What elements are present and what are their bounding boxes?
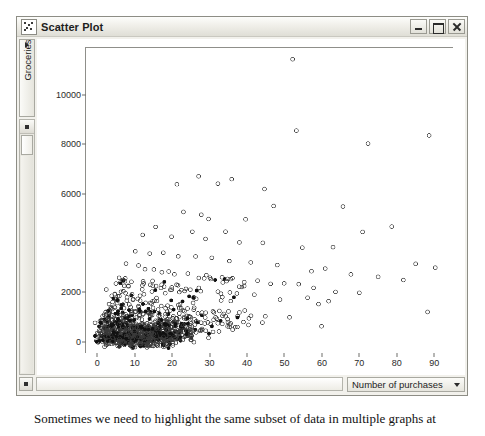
x-axis-tick-mark bbox=[97, 353, 98, 357]
plot-panel: 0200040006000800010000010203040506070809… bbox=[37, 39, 465, 375]
y-axis-variable-label: Groceries bbox=[20, 39, 35, 89]
y-axis-tick-label: 10000 bbox=[56, 90, 81, 100]
x-axis-tick-mark bbox=[134, 353, 135, 357]
figure-caption: Sometimes we need to highlight the same … bbox=[34, 410, 464, 427]
x-axis-tick-label: 90 bbox=[429, 358, 439, 368]
scroll-up-button[interactable] bbox=[20, 120, 34, 134]
y-axis-tick-label: 6000 bbox=[61, 189, 81, 199]
minimize-button[interactable] bbox=[410, 19, 427, 34]
scatter-plot-canvas[interactable] bbox=[86, 48, 453, 353]
y-axis-tick-label: 0 bbox=[76, 337, 81, 347]
vertical-scrollbar-thumb[interactable] bbox=[21, 135, 33, 155]
chevron-down-icon bbox=[454, 383, 460, 387]
x-axis-tick-label: 30 bbox=[205, 358, 215, 368]
x-axis-tick-mark bbox=[321, 353, 322, 357]
window-title: Scatter Plot bbox=[41, 21, 408, 33]
left-rail: Groceries bbox=[19, 39, 35, 375]
y-axis-tick-mark bbox=[82, 292, 86, 293]
x-axis-variable-selector[interactable]: Number of purchases bbox=[347, 377, 465, 392]
plot-frame: 0200040006000800010000010203040506070809… bbox=[85, 47, 453, 353]
scatter-plot-icon bbox=[21, 19, 37, 35]
x-axis-tick-label: 80 bbox=[392, 358, 402, 368]
x-axis-tick-mark bbox=[247, 353, 248, 357]
x-axis-tick-label: 10 bbox=[130, 358, 140, 368]
x-axis-tick-label: 40 bbox=[242, 358, 252, 368]
horizontal-scrollbar[interactable] bbox=[36, 377, 343, 391]
x-axis-tick-mark bbox=[359, 353, 360, 357]
x-axis-tick-label: 60 bbox=[317, 358, 327, 368]
scatter-plot-window: Scatter Plot Groceries 02000400060008000… bbox=[16, 16, 468, 396]
x-axis-tick-mark bbox=[284, 353, 285, 357]
maximize-button[interactable] bbox=[429, 19, 446, 34]
y-axis-tick-mark bbox=[82, 341, 86, 342]
y-axis-tick-mark bbox=[82, 144, 86, 145]
x-axis-tick-mark bbox=[434, 353, 435, 357]
x-axis-tick-mark bbox=[396, 353, 397, 357]
vertical-scrollbar-track[interactable] bbox=[21, 156, 33, 373]
close-icon[interactable] bbox=[448, 19, 465, 34]
x-axis-variable-label: Number of purchases bbox=[352, 379, 454, 390]
y-axis-tick-label: 2000 bbox=[61, 287, 81, 297]
x-axis-tick-mark bbox=[209, 353, 210, 357]
y-axis-tick-mark bbox=[82, 193, 86, 194]
x-axis-tick-label: 70 bbox=[354, 358, 364, 368]
y-axis-tick-label: 8000 bbox=[61, 139, 81, 149]
x-axis-tick-label: 50 bbox=[279, 358, 289, 368]
y-axis-tick-mark bbox=[82, 94, 86, 95]
y-axis-tick-mark bbox=[82, 243, 86, 244]
scroll-left-button[interactable] bbox=[19, 377, 33, 391]
y-axis-tick-label: 4000 bbox=[61, 238, 81, 248]
vertical-scrollbar[interactable] bbox=[19, 119, 35, 375]
x-axis-tick-label: 20 bbox=[167, 358, 177, 368]
window-body: Groceries 020004000600080001000001020304… bbox=[17, 37, 467, 395]
x-axis-tick-label: 0 bbox=[95, 358, 100, 368]
bottom-rail: Number of purchases bbox=[19, 377, 465, 393]
y-axis-variable-selector[interactable]: Groceries bbox=[19, 39, 35, 117]
x-axis-tick-mark bbox=[172, 353, 173, 357]
window-titlebar[interactable]: Scatter Plot bbox=[17, 17, 467, 37]
